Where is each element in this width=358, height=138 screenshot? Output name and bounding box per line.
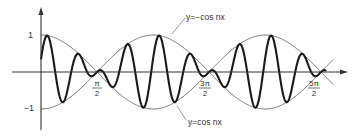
y-axis-arrow-icon [39, 7, 44, 15]
x-tick-pi-over-2-num: π [94, 79, 100, 88]
y-tick-1: 1 [28, 30, 33, 40]
x-tick-5pi-over-2-den: 2 [312, 89, 317, 98]
x-tick-5pi-over-2-num: 5π [309, 79, 319, 88]
axes [12, 7, 348, 130]
x-tick-3pi-over-2-den: 2 [203, 89, 208, 98]
x-tick-3pi-over-2-num: 3π [200, 79, 210, 88]
plot-area: 1 −1 π 2 3π 2 5π 2 y=−cos nx y=cos nx [0, 0, 358, 138]
x-axis-arrow-icon [340, 70, 348, 75]
y-tick-minus-1: −1 [24, 103, 34, 113]
leader-line [177, 106, 186, 120]
modulated-wave-figure: 1 −1 π 2 3π 2 5π 2 y=−cos nx y=cos nx [0, 0, 358, 138]
top-envelope-label: y=−cos nx [186, 12, 225, 22]
x-tick-pi-over-2-den: 2 [95, 89, 100, 98]
leader-line [172, 18, 185, 34]
bottom-envelope-label: y=cos nx [188, 117, 223, 127]
